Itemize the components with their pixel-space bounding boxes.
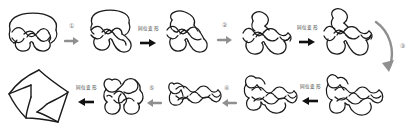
step-badge-4: ④: [224, 85, 229, 91]
knot-isotopy-figure: ① 同位变形: [0, 0, 415, 128]
isotopy-label-3: 同位变形: [76, 86, 97, 91]
step-arrow-5: [146, 94, 162, 112]
knot-diagram-3: [160, 8, 210, 58]
knot-diagram-10: [100, 70, 146, 118]
isotopy-label-2: 同位变形: [297, 26, 318, 31]
knot-diagram-1: [4, 10, 62, 56]
knot-diagram-pentagram: [6, 66, 72, 126]
knot-diagram-9: [166, 72, 224, 116]
knot-diagram-4: [237, 7, 295, 59]
isotopy-arrow-3: [77, 93, 95, 111]
knot-diagram-5: [319, 5, 374, 60]
step-arrow-4: [221, 94, 237, 112]
step-badge-2: ②: [222, 22, 227, 28]
step-arrow-2: [217, 31, 233, 49]
knot-diagram-7: [324, 68, 386, 122]
step-badge-5: ⑤: [149, 85, 154, 91]
knot-diagram-8: [240, 70, 300, 120]
isotopy-arrow-2: [298, 33, 316, 51]
isotopy-arrow-1: [139, 34, 157, 52]
step-badge-1: ①: [69, 23, 74, 29]
isotopy-arrow-4: [301, 92, 319, 110]
knot-diagram-2: [84, 8, 136, 58]
step-arrow-1: [64, 32, 80, 50]
isotopy-label-4: 同位变形: [300, 85, 321, 90]
isotopy-label-1: 同位变形: [138, 27, 159, 32]
step-badge-3: ③: [400, 43, 405, 49]
